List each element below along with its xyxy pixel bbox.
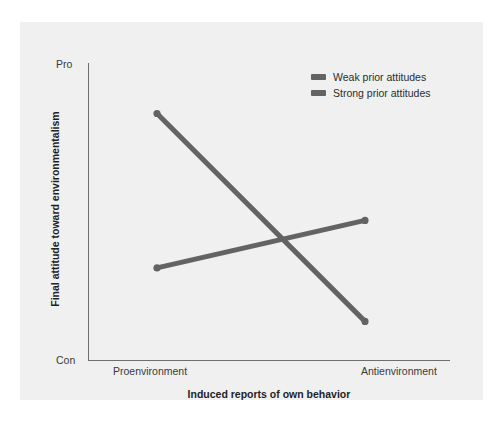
- data-point-marker: [153, 110, 160, 117]
- series-line: [157, 220, 365, 268]
- legend-label: Strong prior attitudes: [333, 88, 430, 99]
- legend-label: Weak prior attitudes: [333, 72, 426, 83]
- legend-swatch-icon: [311, 74, 326, 80]
- data-point-marker: [361, 318, 368, 325]
- data-point-marker: [361, 217, 368, 224]
- chart-legend: Weak prior attitudes Strong prior attitu…: [311, 70, 430, 102]
- legend-swatch-icon: [311, 90, 326, 96]
- plot-area: [0, 0, 504, 421]
- legend-item-strong-prior-attitudes[interactable]: Strong prior attitudes: [311, 86, 430, 100]
- series-line: [157, 113, 365, 321]
- legend-item-weak-prior-attitudes[interactable]: Weak prior attitudes: [311, 70, 430, 84]
- chart-figure: Pro Con Proenvironment Antienvironment F…: [0, 0, 504, 421]
- data-point-marker: [153, 264, 160, 271]
